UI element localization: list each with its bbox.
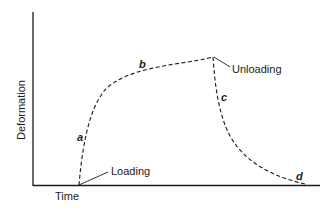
- unloading-curve: [213, 57, 305, 184]
- curve-label-a: a: [77, 131, 83, 143]
- unloading-annotation: Unloading: [232, 63, 282, 75]
- loading-annotation: Loading: [111, 165, 150, 177]
- curve-label-b: b: [139, 58, 146, 70]
- curve-label-d: d: [296, 170, 303, 182]
- unloading-leader-line: [214, 57, 230, 67]
- x-axis-label: Time: [55, 190, 79, 202]
- loading-leader-line: [79, 172, 108, 185]
- y-axis-label: Deformation: [15, 80, 27, 140]
- creep-diagram: Deformation Time Loading Unloading a b c…: [0, 0, 333, 213]
- curve-label-c: c: [221, 91, 227, 103]
